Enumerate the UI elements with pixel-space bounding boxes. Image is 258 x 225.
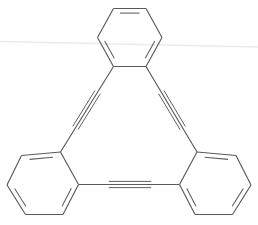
bottom-left-benzene-ring-edge-5 xyxy=(7,156,22,186)
triple-bonds-group xyxy=(61,67,198,188)
bottom-right-benzene-ring-edge-2 xyxy=(233,185,252,215)
bottom-right-benzene-ring xyxy=(180,152,252,215)
scan-streak xyxy=(0,42,258,48)
bottom-left-benzene-ring-edge-4 xyxy=(7,185,26,215)
bottom-right-benzene-ring-double-bond-4 xyxy=(187,188,196,206)
top-benzene-ring-edge-5 xyxy=(98,9,114,38)
structure-canvas xyxy=(0,0,258,225)
benzene-rings-group xyxy=(7,9,251,215)
bottom-left-benzene-ring-double-bond-4 xyxy=(15,189,26,207)
right-alkyne-sigma xyxy=(146,67,197,153)
bottom-left-benzene-ring xyxy=(7,152,79,215)
left-alkyne-sigma xyxy=(61,67,114,153)
right-alkyne xyxy=(146,67,197,153)
bottom-left-benzene-ring-edge-0 xyxy=(22,152,61,156)
chemical-structure-diagram xyxy=(0,0,258,225)
bottom-right-benzene-ring-double-bond-2 xyxy=(232,189,243,207)
left-alkyne xyxy=(61,67,114,153)
bottom-right-benzene-ring-edge-0 xyxy=(197,152,236,156)
bottom-right-benzene-ring-edge-5 xyxy=(180,152,198,185)
top-benzene-ring-double-bond-2 xyxy=(145,41,155,58)
scan-streak-artifact xyxy=(0,42,258,48)
bottom-alkyne xyxy=(79,181,180,187)
bottom-left-benzene-ring-edge-1 xyxy=(61,152,79,185)
bottom-right-benzene-ring-double-bond-0 xyxy=(205,157,228,159)
top-benzene-ring xyxy=(98,9,163,67)
bottom-right-benzene-ring-edge-1 xyxy=(236,156,251,186)
bottom-left-benzene-ring-double-bond-2 xyxy=(62,188,71,206)
top-benzene-ring-edge-1 xyxy=(146,9,162,38)
bottom-left-benzene-ring-double-bond-0 xyxy=(30,157,53,159)
